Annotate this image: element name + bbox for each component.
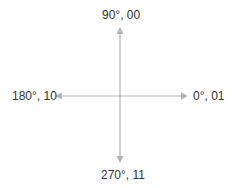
- label-top: 90°, 00: [102, 8, 140, 22]
- arrow-down-icon: [117, 156, 124, 163]
- label-left: 180°, 10: [12, 89, 57, 103]
- label-bottom: 270°, 11: [101, 168, 145, 182]
- arrow-right-icon: [181, 93, 188, 100]
- label-right: 0°, 01: [193, 89, 225, 103]
- arrow-up-icon: [117, 27, 124, 34]
